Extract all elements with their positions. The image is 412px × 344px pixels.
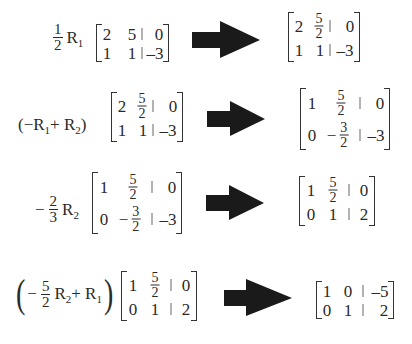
augment-bar: [363, 304, 364, 316]
fraction-5-2: 5 2: [151, 271, 160, 300]
augment-bar: [171, 303, 172, 315]
result-matrix: 1 5 2 0 0 − 3 2 –3: [300, 88, 390, 150]
augment-bar: [152, 181, 153, 193]
augment-bar: [330, 44, 331, 56]
augment-bar: [349, 208, 350, 220]
coefficient-fraction: 5 2: [41, 279, 51, 310]
row-operation-label: − 2 3 R2: [35, 194, 79, 225]
right-arrow-icon: [207, 101, 267, 137]
result-matrix: 1 0 –5 0 1 2: [316, 281, 394, 319]
input-matrix: 2 5 0 1 1 –3: [96, 24, 169, 62]
coefficient-fraction: 2 3: [49, 194, 59, 225]
augment-bar: [330, 20, 331, 32]
coefficient-fraction: 1 2: [53, 22, 63, 53]
row-symbol: R: [54, 284, 65, 304]
row-symbol: R: [62, 200, 73, 220]
row-symbol: R: [67, 28, 78, 48]
input-matrix: 1 5 2 0 0 1 2: [121, 271, 197, 321]
augment-bar: [360, 97, 361, 109]
augment-bar: [363, 285, 364, 297]
right-arrow-icon: [192, 21, 262, 59]
fraction-5-2: 5 2: [337, 89, 346, 118]
input-matrix: 1 5 2 0 0 − 3 2 –3: [92, 172, 182, 234]
result-matrix: 2 5 2 0 1 1 –3: [288, 12, 360, 62]
fraction-5-2: 5 2: [329, 176, 338, 205]
augment-bar: [152, 213, 153, 225]
row-operation-label: ( − 5 2 R2 + R1 ): [14, 274, 115, 314]
fraction-neg-3-2: 3 2: [339, 121, 348, 150]
augment-bar: [153, 124, 154, 136]
fraction-5-2: 5 2: [129, 173, 138, 202]
result-matrix: 1 5 2 0 0 1 2: [299, 176, 375, 226]
input-matrix: 2 5 2 0 1 1 –3: [111, 92, 183, 142]
augment-bar: [349, 184, 350, 196]
right-arrow-icon: [224, 279, 294, 317]
right-arrow-icon: [206, 185, 266, 221]
row-operation-label: (−R1 + R2): [18, 115, 86, 135]
row-operation-label: 1 2 R1: [52, 22, 83, 53]
augment-bar: [142, 47, 143, 59]
augment-bar: [142, 28, 143, 40]
fraction-neg-3-2: 3 2: [131, 205, 140, 234]
augment-bar: [153, 100, 154, 112]
fraction-5-2: 5 2: [315, 12, 324, 41]
fraction-5-2: 5 2: [138, 92, 147, 121]
augment-bar: [360, 129, 361, 141]
augment-bar: [171, 279, 172, 291]
